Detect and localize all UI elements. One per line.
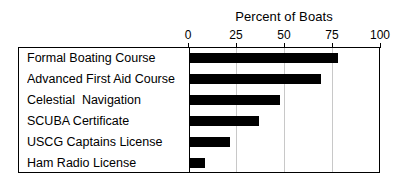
- bar: [190, 137, 230, 147]
- bar: [190, 53, 338, 63]
- bar-row: Celestial Navigation: [19, 90, 379, 111]
- x-axis-tick-labels: 0255075100: [0, 28, 394, 43]
- bar: [190, 95, 280, 105]
- bar-row: Formal Boating Course: [19, 48, 379, 69]
- category-label: USCG Captains License: [27, 132, 187, 153]
- category-label: Advanced First Aid Course: [27, 69, 187, 90]
- x-tick-label-25: 25: [216, 28, 256, 42]
- plot-area: Formal Boating CourseAdvanced First Aid …: [18, 47, 380, 173]
- category-label: SCUBA Certificate: [27, 111, 187, 132]
- category-label: Celestial Navigation: [27, 90, 187, 111]
- x-tick-label-50: 50: [264, 28, 304, 42]
- bar: [190, 158, 205, 168]
- category-label: Ham Radio License: [27, 153, 187, 174]
- x-tick-label-0: 0: [168, 28, 208, 42]
- bar-row: USCG Captains License: [19, 132, 379, 153]
- bar: [190, 74, 321, 84]
- x-tick-label-100: 100: [360, 28, 394, 42]
- bar: [190, 116, 259, 126]
- bar-row: SCUBA Certificate: [19, 111, 379, 132]
- bar-row: Advanced First Aid Course: [19, 69, 379, 90]
- bar-chart: Percent of Boats 0255075100 Formal Boati…: [0, 0, 394, 183]
- x-tick-label-75: 75: [312, 28, 352, 42]
- category-label: Formal Boating Course: [27, 48, 187, 69]
- bar-row: Ham Radio License: [19, 153, 379, 174]
- x-tick-mark-100: [380, 43, 381, 48]
- chart-title: Percent of Boats: [188, 9, 380, 24]
- bar-rows: Formal Boating CourseAdvanced First Aid …: [19, 48, 379, 172]
